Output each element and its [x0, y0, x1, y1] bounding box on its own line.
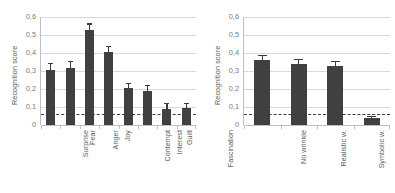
error-bar-cap [126, 83, 131, 84]
error-bar-cap [106, 46, 111, 47]
x-tick-mark [99, 125, 100, 129]
plot-area-right [244, 17, 390, 125]
x-tick-mark [317, 125, 318, 129]
y-tick-label: 0,2 [218, 85, 239, 92]
error-bar-cap [87, 23, 92, 24]
error-bar [50, 63, 51, 70]
y-tick-label: 0,2 [15, 85, 36, 92]
y-tick-label: 0,5 [218, 31, 239, 38]
x-tick-label: Realistic w. [338, 130, 347, 167]
bar [327, 66, 343, 125]
bar [182, 108, 191, 125]
gridline [41, 17, 196, 18]
y-tick-label: 0,6 [15, 13, 36, 20]
y-tick-label: 0,3 [15, 67, 36, 74]
reference-line [244, 114, 390, 115]
gridline [41, 53, 196, 54]
y-tick-label: 0 [15, 121, 36, 128]
x-tick-label: Fear [88, 130, 97, 145]
bar [291, 64, 307, 125]
gridline [41, 35, 196, 36]
y-tick-label: 0,5 [15, 31, 36, 38]
x-tick-mark [157, 125, 158, 129]
figure-two-bar-charts: Recognition score 0,60,50,40,30,20,10 Su… [0, 0, 395, 193]
bar [143, 91, 152, 125]
bar [254, 60, 270, 125]
error-bar-cap [48, 63, 53, 64]
gridline [41, 107, 196, 108]
x-tick-label: Interest [175, 130, 184, 154]
error-bar-cap [367, 116, 376, 117]
bar [66, 68, 75, 125]
error-bar-cap [294, 59, 303, 60]
gridline [41, 71, 196, 72]
x-tick-mark [281, 125, 282, 129]
bar [46, 70, 55, 125]
error-bar-cap [145, 85, 150, 86]
y-tick-label: 0,3 [218, 67, 239, 74]
x-tick-label: Anger [112, 130, 121, 149]
bar [162, 109, 171, 125]
chart-panel-right: Recognition score 0,60,50,40,30,20,10 No… [200, 0, 395, 193]
y-tick-label: 0,1 [15, 103, 36, 110]
gridline [244, 53, 390, 54]
x-tick-mark [119, 125, 120, 129]
gridline [244, 17, 390, 18]
x-tick-mark [195, 125, 196, 129]
x-tick-label: Symbolic w. [377, 130, 386, 169]
y-tick-label: 0,6 [218, 13, 239, 20]
gridline [244, 35, 390, 36]
bar [85, 30, 94, 125]
x-tick-mark [389, 125, 390, 129]
x-tick-label: No wrinkle [299, 130, 308, 164]
x-tick-mark [60, 125, 61, 129]
error-bar-cap [184, 103, 189, 104]
x-tick-mark [177, 125, 178, 129]
y-tick-label: 0,4 [15, 49, 36, 56]
error-bar-cap [164, 103, 169, 104]
x-tick-label: Contempt [163, 130, 172, 162]
x-tick-mark [354, 125, 355, 129]
chart-panel-left: Recognition score 0,60,50,40,30,20,10 Su… [0, 0, 200, 193]
x-tick-label: Joy [123, 130, 132, 141]
error-bar-cap [68, 61, 73, 62]
y-tick-label: 0,1 [218, 103, 239, 110]
error-bar-cap [331, 61, 340, 62]
plot-area-left [41, 17, 196, 125]
x-tick-mark [41, 125, 42, 129]
error-bar-cap [258, 55, 267, 56]
y-tick-label: 0 [218, 121, 239, 128]
x-tick-mark [138, 125, 139, 129]
reference-line [41, 114, 196, 115]
x-tick-mark [80, 125, 81, 129]
y-tick-label: 0,4 [218, 49, 239, 56]
x-tick-mark [244, 125, 245, 129]
bar [124, 88, 133, 125]
gridline [41, 89, 196, 90]
x-tick-label: Guilt [185, 130, 194, 145]
bar [364, 118, 380, 125]
